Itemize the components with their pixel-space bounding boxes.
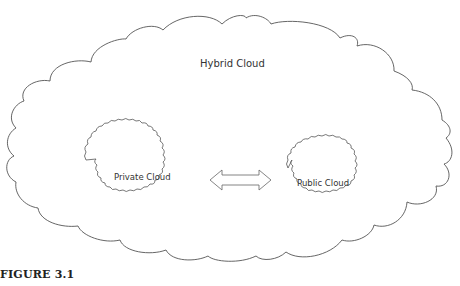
hybrid-cloud-label: Hybrid Cloud xyxy=(200,58,265,69)
private-cloud-label: Private Cloud xyxy=(114,172,171,182)
hybrid-cloud-diagram xyxy=(0,0,460,286)
hybrid-cloud-shape xyxy=(7,16,452,262)
figure-caption: FIGURE 3.1 xyxy=(0,268,74,281)
public-cloud-label: Public Cloud xyxy=(297,178,349,188)
